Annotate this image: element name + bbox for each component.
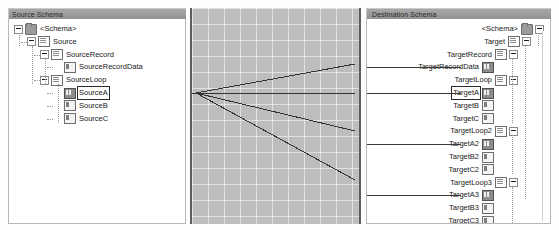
mapping-link-line[interactable]	[196, 93, 355, 131]
attribute-icon	[482, 216, 494, 225]
destination-schema-body: <Schema>TargetTargetRecordTargetRecordDa…	[366, 19, 551, 224]
tree-guide-line	[45, 59, 47, 85]
destination-tree-node[interactable]: TargetLoop2	[449, 125, 518, 137]
source-schema-panel: Source Schema <Schema>SourceSourceRecord…	[8, 8, 186, 224]
source-tree-node[interactable]: Source	[27, 36, 78, 48]
loop-item-icon	[482, 88, 494, 99]
tree-guide-line	[512, 135, 514, 173]
tree-node-label: <Schema>	[39, 23, 77, 35]
tree-node-label: TargetC	[452, 113, 480, 125]
destination-tree-node[interactable]: <Schema>	[481, 23, 544, 35]
destination-tree-node[interactable]: TargetB	[452, 100, 505, 112]
source-schema-body: <Schema>SourceSourceRecordSourceRecordDa…	[8, 19, 186, 224]
document-icon	[508, 36, 520, 47]
attribute-icon	[64, 100, 76, 111]
document-icon	[495, 126, 507, 137]
source-tree-node[interactable]: SourceC	[53, 113, 109, 125]
document-icon	[495, 177, 507, 188]
attribute-icon	[482, 152, 494, 163]
tree-node-label: SourceRecordData	[78, 61, 144, 73]
destination-tree-node[interactable]: TargetRecord	[446, 49, 518, 61]
document-icon	[51, 49, 63, 60]
destination-tree-node[interactable]: TargetLoop3	[449, 177, 518, 189]
tree-node-label: TargetB	[452, 100, 480, 112]
attribute-icon	[482, 100, 494, 111]
folder-icon	[25, 24, 37, 35]
destination-tree-node[interactable]: TargetB3	[448, 202, 505, 214]
tree-node-label: Source	[52, 36, 78, 48]
document-icon	[51, 75, 63, 86]
tree-node-label: SourceC	[78, 113, 109, 125]
tree-guide-line	[525, 46, 527, 200]
tree-node-label: TargetC2	[448, 164, 480, 176]
attribute-icon	[482, 164, 494, 175]
tree-node-label: TargetB3	[448, 202, 480, 214]
tree-guide-line	[512, 59, 514, 85]
mapping-link-line[interactable]	[196, 64, 355, 93]
destination-tree-node[interactable]: TargetC2	[448, 164, 505, 176]
loop-item-icon	[482, 62, 494, 73]
source-tree-node[interactable]: SourceB	[53, 100, 109, 112]
attribute-icon	[482, 203, 494, 214]
tree-guide-line	[32, 46, 34, 84]
loop-item-icon	[64, 88, 76, 99]
destination-tree-node[interactable]: TargetB2	[448, 151, 505, 163]
mapping-link-stub	[367, 144, 461, 145]
schema-mapper-window: Source Schema <Schema>SourceSourceRecord…	[0, 0, 559, 230]
destination-tree-node[interactable]: Target	[483, 36, 531, 48]
source-tree-node[interactable]: SourceLoop	[40, 74, 107, 86]
tree-guide-line	[512, 187, 514, 224]
tree-node-label: TargetLoop	[453, 74, 493, 86]
source-tree-node[interactable]: SourceA	[53, 87, 109, 99]
tree-guide-line	[538, 33, 540, 46]
mapping-link-stub	[367, 67, 461, 68]
source-tree-node[interactable]: <Schema>	[14, 23, 77, 35]
mapping-link-stub	[367, 195, 461, 196]
loop-item-icon	[482, 139, 494, 150]
tree-node-label: SourceLoop	[65, 74, 107, 86]
mapping-grid-panel[interactable]	[190, 8, 361, 224]
destination-schema-tree[interactable]: <Schema>TargetTargetRecordTargetRecordDa…	[367, 19, 550, 223]
document-icon	[495, 49, 507, 60]
source-tree-node[interactable]: SourceRecordData	[53, 61, 144, 73]
tree-node-label: <Schema>	[481, 23, 519, 35]
tree-node-label: Target	[483, 36, 506, 48]
tree-node-label: SourceB	[78, 100, 109, 112]
tree-node-label: SourceA	[78, 87, 109, 99]
mapping-link-line[interactable]	[196, 93, 355, 180]
document-icon	[495, 75, 507, 86]
tree-node-label: TargetRecord	[446, 49, 493, 61]
tree-node-label: TargetLoop2	[449, 125, 493, 137]
source-tree-node[interactable]: SourceRecord	[40, 49, 115, 61]
tree-node-label: SourceRecord	[65, 49, 115, 61]
mapping-link-stub	[367, 93, 461, 94]
attribute-icon	[64, 113, 76, 124]
tree-node-label: TargetLoop3	[449, 177, 493, 189]
destination-scrollbar[interactable]	[542, 31, 548, 221]
destination-tree-node[interactable]: TargetLoop	[453, 74, 518, 86]
tree-node-label: TargetB2	[448, 151, 480, 163]
destination-tree-node[interactable]: TargetC3	[448, 215, 505, 224]
tree-guide-line	[58, 84, 60, 122]
attribute-icon	[64, 62, 76, 73]
source-schema-tree[interactable]: <Schema>SourceSourceRecordSourceRecordDa…	[9, 19, 185, 223]
tree-guide-line	[512, 84, 514, 122]
tree-guide-line	[19, 33, 21, 46]
destination-tree-node[interactable]: TargetC	[452, 113, 505, 125]
loop-item-icon	[482, 190, 494, 201]
mapping-links	[192, 8, 355, 224]
folder-icon	[521, 24, 533, 35]
tree-node-label: TargetC3	[448, 215, 480, 224]
document-icon	[38, 36, 50, 47]
destination-schema-panel: Destination Schema <Schema>TargetTargetR…	[366, 8, 551, 224]
attribute-icon	[482, 113, 494, 124]
